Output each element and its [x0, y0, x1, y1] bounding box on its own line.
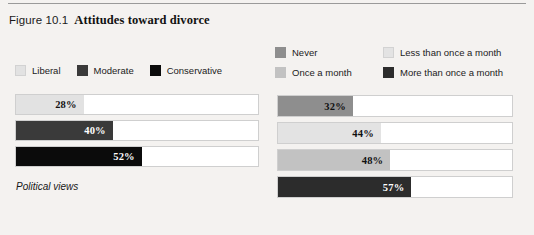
legend-swatch-icon — [150, 65, 161, 76]
legend-item-label: Less than once a month — [400, 47, 501, 58]
legend-swatch-icon — [77, 65, 88, 76]
bar-track: 48% — [277, 149, 513, 171]
legend-item-label: Once a month — [292, 67, 352, 78]
bar-fill[interactable]: 57% — [278, 177, 411, 197]
legend-item-moderate[interactable]: Moderate — [77, 65, 134, 76]
bar-fill[interactable]: 44% — [278, 123, 381, 143]
legend-item-label: Moderate — [94, 65, 134, 76]
legend-religious-activities: Never Less than once a month Once a mont… — [275, 47, 503, 78]
bar-value-label: 32% — [324, 101, 346, 112]
bar-value-label: 44% — [352, 128, 374, 139]
bar-value-label: 48% — [362, 155, 384, 166]
legend-item-never[interactable]: Never — [275, 47, 383, 58]
legend-swatch-icon — [15, 65, 26, 76]
legend-swatch-icon — [383, 47, 394, 58]
legend-item-conservative[interactable]: Conservative — [150, 65, 222, 76]
bar-value-label: 28% — [55, 99, 77, 110]
bar-value-label: 52% — [113, 151, 135, 162]
bar-group-political-views: 28% 40% 52% — [15, 94, 259, 167]
legend-item-less-than-once-a-month[interactable]: Less than once a month — [383, 47, 503, 58]
axis-caption-political-views: Political views — [16, 181, 78, 192]
bar-value-label: 57% — [383, 182, 405, 193]
figure-container: Figure 10.1Attitudes toward divorce Libe… — [0, 0, 534, 235]
legend-item-label: Conservative — [167, 65, 222, 76]
bar-track: 52% — [15, 146, 259, 167]
legend-item-label: More than once a month — [400, 67, 503, 78]
legend-item-liberal[interactable]: Liberal — [15, 65, 61, 76]
legend-swatch-icon — [383, 67, 394, 78]
legend-item-label: Liberal — [32, 65, 61, 76]
bar-fill[interactable]: 52% — [16, 147, 142, 166]
legend-item-more-than-once-a-month[interactable]: More than once a month — [383, 67, 503, 78]
panel-religious-activities: Never Less than once a month Once a mont… — [267, 0, 534, 235]
legend-swatch-icon — [275, 47, 286, 58]
legend-political-views: Liberal Moderate Conservative — [15, 65, 222, 76]
bar-fill[interactable]: 40% — [16, 121, 113, 140]
bar-track: 28% — [15, 94, 259, 115]
legend-swatch-icon — [275, 67, 286, 78]
bar-group-religious-activities: 32% 44% 48% 57% — [277, 95, 513, 198]
bar-track: 40% — [15, 120, 259, 141]
bar-track: 57% — [277, 176, 513, 198]
bar-track: 32% — [277, 95, 513, 117]
bar-value-label: 40% — [84, 125, 106, 136]
bar-fill[interactable]: 32% — [278, 96, 353, 116]
bar-fill[interactable]: 48% — [278, 150, 390, 170]
bar-fill[interactable]: 28% — [16, 95, 84, 114]
bar-track: 44% — [277, 122, 513, 144]
legend-item-label: Never — [292, 47, 317, 58]
legend-item-once-a-month[interactable]: Once a month — [275, 67, 383, 78]
panel-political-views: Liberal Moderate Conservative 28% 40% — [0, 0, 267, 235]
